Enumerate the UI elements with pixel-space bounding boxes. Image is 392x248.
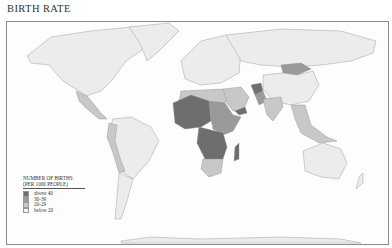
legend-swatch [23,208,29,214]
region-south-america-south [115,173,133,219]
legend-label: below 20 [34,208,53,214]
region-australia [303,143,347,179]
legend-title-line2: (PER 1000 PEOPLE) [23,181,93,187]
region-russia [226,29,376,67]
map-frame: NUMBER OF BIRTHS (PER 1000 PEOPLE) above… [6,21,389,245]
region-central-america [76,91,107,119]
region-antarctica [121,237,361,243]
region-se-asia [291,105,337,143]
legend: NUMBER OF BIRTHS (PER 1000 PEOPLE) above… [23,175,93,213]
region-new-zealand [356,173,363,189]
region-india [263,97,283,121]
region-madagascar [234,143,239,161]
region-southern-africa [201,159,223,177]
legend-item-below-20: below 20 [23,208,93,214]
region-north-america [27,27,151,96]
region-west-africa [173,95,211,129]
legend-divider [23,188,85,189]
map-title: BIRTH RATE [7,3,71,14]
